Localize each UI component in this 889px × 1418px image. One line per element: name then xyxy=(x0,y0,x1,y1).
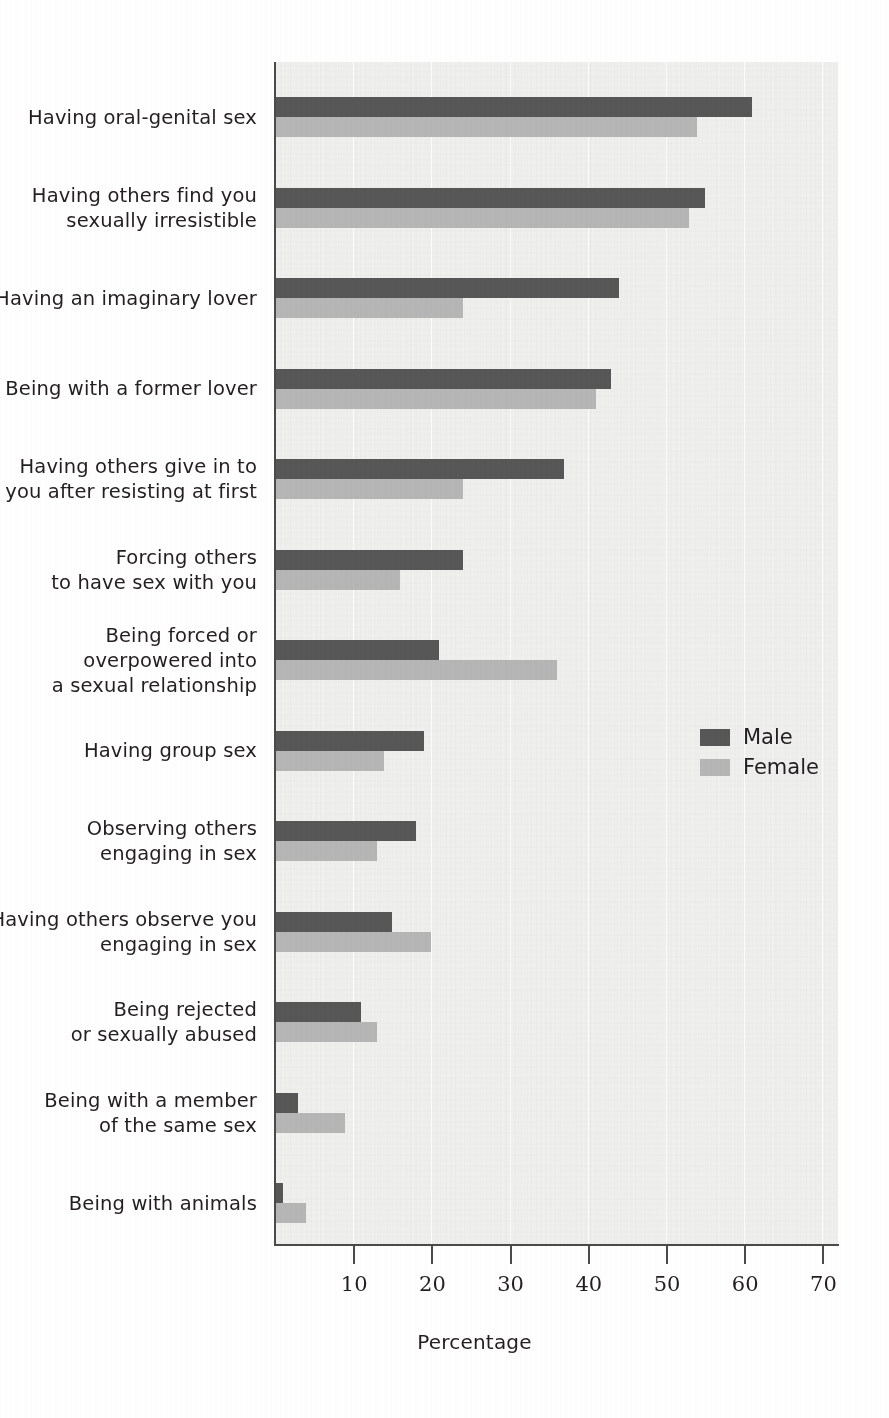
category-label-line: or sexually abused xyxy=(0,1022,257,1047)
bar-female-6 xyxy=(275,660,557,680)
tick-label-60: 60 xyxy=(725,1272,765,1296)
bar-female-10 xyxy=(275,1022,377,1042)
legend-item-female[interactable]: Female xyxy=(700,752,819,782)
tick-label-70: 70 xyxy=(803,1272,843,1296)
legend-item-male[interactable]: Male xyxy=(700,722,819,752)
category-label-line: Being rejected xyxy=(0,997,257,1022)
tick-mark-30 xyxy=(510,1246,512,1264)
bar-chart-figure: 10203040506070 Having oral-genital sexHa… xyxy=(0,0,889,1418)
tick-label-40: 40 xyxy=(569,1272,609,1296)
bar-male-8 xyxy=(275,821,416,841)
plot-area xyxy=(275,62,838,1244)
category-label-line: Having group sex xyxy=(0,738,257,763)
category-label-line: of the same sex xyxy=(0,1113,257,1138)
tick-mark-10 xyxy=(353,1246,355,1264)
category-label-11: Being with a memberof the same sex xyxy=(0,1088,257,1138)
y-axis-line xyxy=(274,62,276,1246)
tick-label-50: 50 xyxy=(647,1272,687,1296)
category-label-line: Observing others xyxy=(0,816,257,841)
category-label-line: Being forced or xyxy=(0,623,257,648)
category-label-line: Having oral-genital sex xyxy=(0,105,257,130)
category-label-line: Having an imaginary lover xyxy=(0,286,257,311)
category-label-7: Having group sex xyxy=(0,738,257,763)
bar-male-1 xyxy=(275,188,705,208)
category-label-line: overpowered into xyxy=(0,648,257,673)
bar-female-3 xyxy=(275,389,596,409)
bar-male-11 xyxy=(275,1093,298,1113)
bar-female-1 xyxy=(275,208,689,228)
x-axis-line xyxy=(274,1244,839,1246)
category-label-line: to have sex with you xyxy=(0,570,257,595)
tick-label-20: 20 xyxy=(412,1272,452,1296)
legend-label-male: Male xyxy=(743,725,793,749)
category-label-9: Having others observe youengaging in sex xyxy=(0,907,257,957)
chart-legend: MaleFemale xyxy=(700,722,819,782)
bar-female-5 xyxy=(275,570,400,590)
legend-swatch-male xyxy=(700,729,730,746)
bar-female-4 xyxy=(275,479,463,499)
category-label-10: Being rejectedor sexually abused xyxy=(0,997,257,1047)
tick-mark-70 xyxy=(822,1246,824,1264)
category-label-line: engaging in sex xyxy=(0,841,257,866)
category-label-line: Being with animals xyxy=(0,1191,257,1216)
bar-male-2 xyxy=(275,278,619,298)
legend-swatch-female xyxy=(700,759,730,776)
x-axis-title-text: Percentage xyxy=(417,1330,532,1354)
bar-female-8 xyxy=(275,841,377,861)
bar-female-0 xyxy=(275,117,697,137)
bar-male-6 xyxy=(275,640,439,660)
bar-female-9 xyxy=(275,932,431,952)
bar-male-9 xyxy=(275,912,392,932)
category-label-line: you after resisting at first xyxy=(0,479,257,504)
bar-male-0 xyxy=(275,97,752,117)
category-label-line: a sexual relationship xyxy=(0,673,257,698)
category-label-3: Being with a former lover xyxy=(0,376,257,401)
category-label-line: Being with a former lover xyxy=(0,376,257,401)
category-label-5: Forcing othersto have sex with you xyxy=(0,545,257,595)
category-label-12: Being with animals xyxy=(0,1191,257,1216)
gridline-30 xyxy=(510,62,511,1244)
tick-label-30: 30 xyxy=(491,1272,531,1296)
bar-male-3 xyxy=(275,369,611,389)
tick-mark-60 xyxy=(744,1246,746,1264)
category-label-6: Being forced oroverpowered intoa sexual … xyxy=(0,623,257,698)
bar-male-5 xyxy=(275,550,463,570)
tick-mark-50 xyxy=(666,1246,668,1264)
category-label-line: Having others give in to xyxy=(0,454,257,479)
bar-female-2 xyxy=(275,298,463,318)
category-label-line: Being with a member xyxy=(0,1088,257,1113)
tick-label-10: 10 xyxy=(334,1272,374,1296)
category-label-2: Having an imaginary lover xyxy=(0,286,257,311)
bar-male-12 xyxy=(275,1183,283,1203)
x-axis-title: Percentage xyxy=(0,1330,889,1354)
legend-label-female: Female xyxy=(743,755,819,779)
bar-female-12 xyxy=(275,1203,306,1223)
category-label-4: Having others give in toyou after resist… xyxy=(0,454,257,504)
category-label-line: Having others observe you xyxy=(0,907,257,932)
category-label-line: Forcing others xyxy=(0,545,257,570)
bar-male-4 xyxy=(275,459,564,479)
gridline-60 xyxy=(744,62,745,1244)
bar-female-7 xyxy=(275,751,384,771)
category-label-line: Having others find you xyxy=(0,183,257,208)
gridline-70 xyxy=(822,62,823,1244)
category-label-1: Having others find yousexually irresisti… xyxy=(0,183,257,233)
gridline-40 xyxy=(588,62,589,1244)
category-label-line: engaging in sex xyxy=(0,932,257,957)
bar-male-7 xyxy=(275,731,424,751)
gridline-50 xyxy=(666,62,667,1244)
category-label-8: Observing othersengaging in sex xyxy=(0,816,257,866)
tick-mark-20 xyxy=(431,1246,433,1264)
bar-female-11 xyxy=(275,1113,345,1133)
category-label-line: sexually irresistible xyxy=(0,208,257,233)
category-label-0: Having oral-genital sex xyxy=(0,105,257,130)
tick-mark-40 xyxy=(588,1246,590,1264)
bar-male-10 xyxy=(275,1002,361,1022)
